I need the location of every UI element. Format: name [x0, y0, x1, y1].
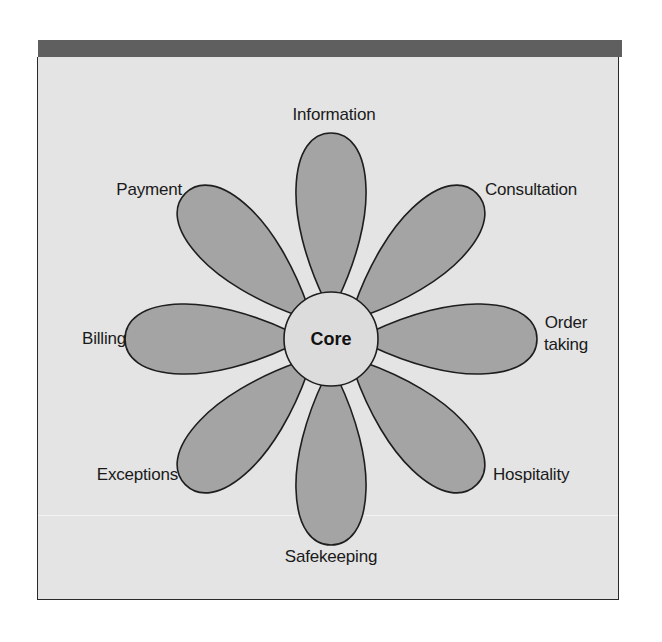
label-exceptions: Exceptions [97, 464, 178, 486]
petal-billing [125, 304, 291, 374]
petal-order-taking [371, 304, 537, 374]
label-order-taking-line-2: taking [544, 334, 588, 356]
flower-of-service-figure: Core Information Consultation Order taki… [0, 0, 662, 642]
label-hospitality: Hospitality [493, 464, 569, 486]
label-payment: Payment [116, 179, 182, 201]
core-label: Core [310, 329, 351, 350]
label-consultation: Consultation [485, 179, 577, 201]
label-information: Information [293, 104, 376, 126]
label-order-taking: Order taking [544, 312, 588, 356]
petal-information [296, 133, 366, 299]
label-safekeeping: Safekeeping [285, 546, 377, 568]
petal-safekeeping [296, 379, 366, 545]
label-billing: Billing [82, 328, 126, 350]
label-order-taking-line-1: Order [544, 312, 588, 334]
